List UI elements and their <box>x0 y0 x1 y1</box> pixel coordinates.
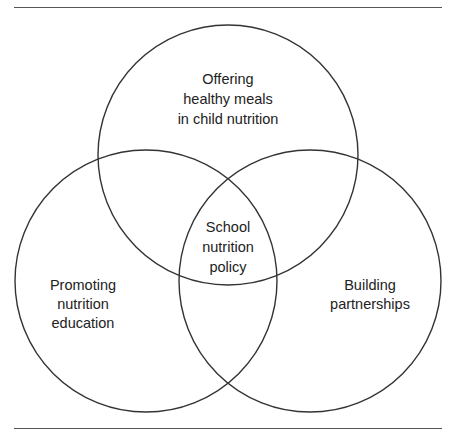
label-right-line-2: partnerships <box>330 296 410 312</box>
label-top-line-1: Offering <box>202 71 253 87</box>
label-top-line-2: healthy meals <box>183 91 272 107</box>
label-top-line-3: in child nutrition <box>178 111 279 127</box>
circle-building-partnerships <box>179 150 441 412</box>
label-left-line-2: nutrition <box>57 296 109 312</box>
label-right-set: Building partnerships <box>330 277 410 312</box>
label-left-set: Promoting nutrition education <box>50 277 116 331</box>
label-right-line-1: Building <box>344 277 396 293</box>
label-center-line-3: policy <box>209 259 247 275</box>
label-top-set: Offering healthy meals in child nutritio… <box>178 71 279 127</box>
label-left-line-3: education <box>52 315 115 331</box>
label-left-line-1: Promoting <box>50 277 116 293</box>
label-center-line-2: nutrition <box>202 239 254 255</box>
venn-diagram: Offering healthy meals in child nutritio… <box>0 0 456 437</box>
label-center-intersection: School nutrition policy <box>202 219 254 275</box>
label-center-line-1: School <box>206 219 250 235</box>
